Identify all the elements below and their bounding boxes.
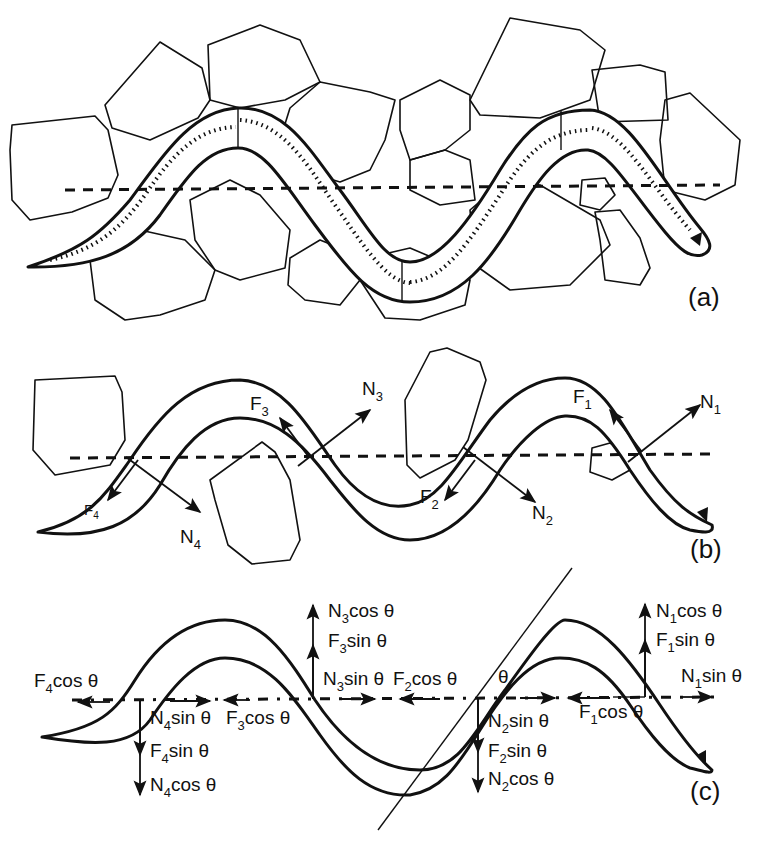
svg-text:N4cos θ: N4cos θ — [150, 774, 216, 800]
svg-text:F4sin θ: F4sin θ — [150, 740, 209, 766]
panel-a: (a) — [10, 18, 740, 320]
svg-text:N3cos θ: N3cos θ — [328, 600, 394, 626]
label-N2: N2 — [532, 502, 553, 528]
svg-text:N4sin θ: N4sin θ — [150, 707, 211, 733]
panel-c: N3cos θ F3sin θ N3sin θ F3cos θ F4cos θ … — [34, 568, 742, 830]
snake-locomotion-figure: (a) F3 N3 F4 N4 F1 N1 F2 N2 — [0, 0, 760, 855]
svg-text:F3sin θ: F3sin θ — [328, 630, 387, 656]
panel-label-a: (a) — [688, 282, 720, 312]
svg-text:N1sin θ: N1sin θ — [681, 665, 742, 691]
panel-label-c: (c) — [690, 776, 720, 806]
label-N3: N3 — [362, 378, 383, 404]
svg-text:F2sin θ: F2sin θ — [488, 740, 547, 766]
snake-body-a — [28, 108, 710, 302]
svg-text:F3cos θ: F3cos θ — [226, 707, 290, 733]
svg-text:F4cos θ: F4cos θ — [34, 670, 98, 696]
svg-text:F2cos θ: F2cos θ — [393, 668, 457, 694]
svg-text:F1cos θ: F1cos θ — [579, 701, 643, 727]
svg-text:N2cos θ: N2cos θ — [488, 768, 554, 794]
svg-text:N1cos θ: N1cos θ — [656, 600, 722, 626]
theta-label: θ — [498, 666, 509, 687]
label-N1: N1 — [700, 391, 721, 417]
svg-text:F1sin θ: F1sin θ — [656, 629, 715, 655]
panel-label-b: (b) — [690, 534, 722, 564]
svg-text:N3sin θ: N3sin θ — [323, 668, 384, 694]
label-N4: N4 — [180, 526, 201, 552]
svg-text:N2sin θ: N2sin θ — [488, 710, 549, 736]
panel-b: F3 N3 F4 N4 F1 N1 F2 N2 (b) — [33, 348, 722, 564]
